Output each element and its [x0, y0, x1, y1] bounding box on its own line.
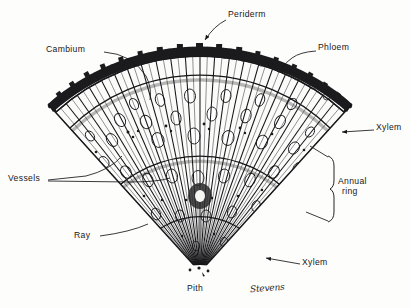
label-vessels: Vessels — [8, 173, 40, 183]
leader-xylem-bottom — [266, 258, 300, 264]
stem-wedge — [48, 36, 352, 277]
label-periderm: Periderm — [228, 9, 266, 19]
leader-ray — [100, 224, 148, 236]
pith-region — [176, 265, 224, 277]
leader-annual-ring-top — [310, 146, 328, 157]
leader-annual-ring-bottom — [306, 212, 328, 221]
label-pith: Pith — [187, 283, 203, 293]
label-annual-ring-line1: Annual — [338, 176, 367, 186]
label-annual-ring: Annual ring — [338, 176, 384, 197]
figure-page: Periderm Cambium Phloem Xylem Vessels An… — [0, 0, 411, 308]
label-annual-ring-line2: ring — [338, 186, 358, 196]
label-xylem-right: Xylem — [376, 122, 402, 132]
label-xylem-bottom: Xylem — [302, 257, 328, 267]
leader-periderm — [205, 20, 226, 40]
label-cambium: Cambium — [46, 44, 85, 54]
leader-xylem-right — [342, 130, 374, 132]
leader-annual-ring-brace — [328, 156, 334, 222]
label-ray: Ray — [74, 230, 90, 240]
label-phloem: Phloem — [318, 42, 349, 52]
